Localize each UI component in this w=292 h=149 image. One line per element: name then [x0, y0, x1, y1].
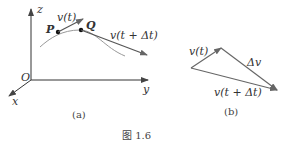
panel-a-caption: (a)	[72, 110, 86, 120]
delta-v-label: Δv	[247, 57, 261, 68]
vector-delta-v	[221, 48, 277, 90]
point-p-label: P	[46, 24, 54, 35]
y-axis-label: y	[143, 84, 149, 95]
point-q-label: Q	[86, 20, 96, 31]
panel-b-caption: (b)	[224, 107, 238, 117]
panel-b-v-t-dt-label: v(t + Δt)	[214, 87, 262, 98]
x-axis-label: x	[12, 96, 18, 107]
origin-label: O	[21, 72, 30, 83]
vector-v-t-label: v(t)	[57, 12, 76, 23]
figure-canvas	[0, 0, 292, 149]
figure-caption: 图 1.6	[122, 131, 151, 141]
vector-v-t-dt-label: v(t + Δt)	[110, 30, 158, 41]
z-axis-label: z	[37, 4, 43, 15]
panel-b-v-t-label: v(t)	[189, 46, 208, 57]
